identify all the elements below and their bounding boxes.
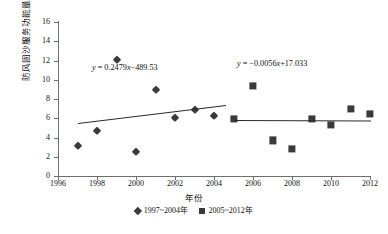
data-point-diamond [151, 86, 160, 95]
legend-item[interactable]: 2005~2012年 [199, 207, 253, 215]
data-point-square [269, 137, 276, 144]
data-point-square [288, 145, 295, 152]
data-point-diamond [209, 111, 218, 120]
y-tick-mark [54, 22, 58, 23]
y-tick-mark [54, 118, 58, 119]
legend-label: 1997~2004年 [144, 207, 188, 215]
y-tick-mark [54, 80, 58, 81]
y-tick-mark [54, 157, 58, 158]
y-tick-mark [54, 176, 58, 177]
y-tick-label: 6 [28, 113, 50, 122]
y-tick-mark [54, 138, 58, 139]
legend-label: 2005~2012年 [208, 207, 252, 215]
chart-legend: 1997~2004年2005~2012年 [0, 207, 388, 215]
x-tick-label: 2004 [194, 179, 234, 188]
x-tick-label: 2002 [155, 179, 195, 188]
data-point-square [249, 82, 256, 89]
plot-area [58, 22, 370, 176]
legend-item[interactable]: 1997~2004年 [135, 207, 188, 215]
y-tick-label: 12 [28, 56, 50, 65]
y-tick-label: 14 [28, 36, 50, 45]
data-point-diamond [170, 114, 179, 123]
legend-marker-square-icon [199, 208, 205, 214]
data-point-square [230, 115, 237, 122]
x-tick-label: 2008 [272, 179, 312, 188]
legend-marker-diamond-icon [134, 207, 142, 215]
y-tick-mark [54, 61, 58, 62]
data-point-square [366, 110, 373, 117]
x-axis-title: 年份 [0, 191, 388, 203]
equation-label-right: y = −0.0056x+17.033 [237, 59, 307, 68]
y-tick-mark [54, 99, 58, 100]
y-tick-label: 4 [28, 133, 50, 142]
data-point-diamond [73, 141, 82, 150]
trend-1997-2004 [78, 105, 226, 124]
equation-label-left: y = 0.2479x−489.53 [92, 63, 158, 72]
data-point-diamond [92, 126, 101, 135]
x-tick-label: 2010 [311, 179, 351, 188]
equation-right-op: = −0.0056 [241, 59, 277, 68]
y-tick-label: 8 [28, 94, 50, 103]
y-tick-mark [54, 41, 58, 42]
y-tick-label: 2 [28, 152, 50, 161]
x-tick-label: 1998 [77, 179, 117, 188]
data-point-square [327, 121, 334, 128]
equation-right-tail: +17.033 [280, 59, 307, 68]
equation-left-op: = 0.2479 [96, 63, 127, 72]
data-point-square [347, 105, 354, 112]
x-tick-label: 1996 [38, 179, 78, 188]
y-tick-label: 10 [28, 75, 50, 84]
equation-left-tail: −489.53 [131, 63, 158, 72]
x-tick-label: 2012 [350, 179, 388, 188]
x-tick-label: 2006 [233, 179, 273, 188]
x-tick-label: 2000 [116, 179, 156, 188]
chart-container: 防风固沙服务功能量/亿t 0246810121416 1996199820002… [0, 0, 388, 234]
data-point-diamond [131, 147, 140, 156]
trend-2005-2012 [233, 120, 370, 121]
y-tick-label: 16 [28, 17, 50, 26]
